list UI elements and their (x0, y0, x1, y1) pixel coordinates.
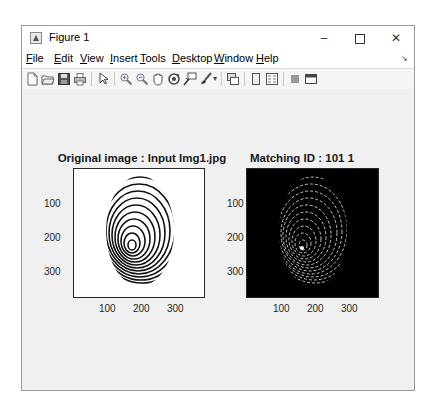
fingerprint-image (74, 169, 204, 297)
pan-hand-icon[interactable] (151, 72, 165, 86)
save-icon[interactable] (57, 72, 71, 86)
new-figure-icon[interactable] (25, 72, 39, 86)
maximize-icon (355, 34, 365, 44)
menu-view[interactable]: View (80, 52, 104, 64)
data-cursor-icon[interactable] (183, 72, 197, 86)
menu-tools[interactable]: Tools (140, 52, 166, 64)
insert-legend-icon[interactable] (304, 72, 318, 86)
toolbar-separator (114, 72, 115, 86)
menu-accel: D (172, 52, 180, 64)
dock-arrow-icon[interactable]: ↘ (401, 54, 408, 63)
menu-edit[interactable]: Edit (54, 52, 73, 64)
rotate-3d-icon[interactable] (167, 72, 181, 86)
xtick-label: 300 (167, 303, 184, 314)
menu-accel: W (214, 52, 224, 64)
xtick-label: 300 (341, 303, 358, 314)
menu-label: nsert (113, 52, 137, 64)
xtick-label: 100 (99, 303, 116, 314)
toolbar-separator (91, 72, 92, 86)
menu-accel: H (256, 52, 264, 64)
insert-colorbar-icon[interactable] (288, 72, 302, 86)
figure-toolbar: ▾ (22, 68, 414, 90)
toolbar-separator (221, 72, 222, 86)
menu-label: ile (33, 52, 44, 64)
menu-label: elp (264, 52, 279, 64)
title-bar[interactable]: Figure 1 – ✕ (22, 26, 414, 50)
xtick-label: 200 (133, 303, 150, 314)
menu-label: indow (224, 52, 253, 64)
xtick-label: 100 (273, 303, 290, 314)
axes-original-image[interactable] (73, 168, 205, 298)
plot-title-original: Original image : Input Img1.jpg (42, 152, 242, 164)
menu-bar: File Edit View Insert Tools Desktop Wind… (22, 50, 414, 68)
figure-canvas: Original image : Input Img1.jpg (22, 89, 414, 390)
print-icon[interactable] (73, 72, 87, 86)
open-file-icon[interactable] (41, 72, 55, 86)
axes-matching-image[interactable] (246, 168, 379, 298)
ytick-label: 200 (227, 232, 244, 243)
xtick-label: 200 (307, 303, 324, 314)
plot-title-matching: Matching ID : 101 1 (222, 152, 382, 164)
ytick-label: 100 (227, 198, 244, 209)
menu-help[interactable]: Help (256, 52, 279, 64)
menu-label: esktop (180, 52, 212, 64)
show-plot-tools-icon[interactable] (265, 72, 279, 86)
menu-desktop[interactable]: Desktop (172, 52, 212, 64)
minutia-point (300, 246, 304, 250)
toolbar-separator (244, 72, 245, 86)
ytick-label: 200 (44, 232, 61, 243)
zoom-in-icon[interactable] (119, 72, 133, 86)
ytick-label: 100 (44, 198, 61, 209)
menu-label: ools (146, 52, 166, 64)
thinned-fingerprint-image (247, 169, 378, 297)
matlab-figure-icon (30, 32, 42, 44)
menu-accel: F (26, 52, 33, 64)
zoom-out-icon[interactable] (135, 72, 149, 86)
brush-icon[interactable] (199, 72, 213, 86)
edit-plot-pointer-icon[interactable] (96, 72, 110, 86)
hide-plot-tools-icon[interactable] (249, 72, 263, 86)
menu-label: dit (61, 52, 73, 64)
menu-window[interactable]: Window (214, 52, 253, 64)
menu-file[interactable]: File (26, 52, 44, 64)
minimize-button[interactable]: – (306, 26, 342, 50)
toolbar-separator (283, 72, 284, 86)
link-plot-icon[interactable] (226, 72, 240, 86)
brush-dropdown-icon[interactable]: ▾ (213, 72, 219, 86)
close-button[interactable]: ✕ (378, 26, 414, 50)
maximize-button[interactable] (342, 26, 378, 50)
menu-insert[interactable]: Insert (110, 52, 138, 64)
window-title: Figure 1 (49, 31, 89, 43)
ytick-label: 300 (44, 266, 61, 277)
ytick-label: 300 (227, 266, 244, 277)
menu-label: iew (87, 52, 104, 64)
figure-window: Figure 1 – ✕ File Edit View Insert Tools… (21, 25, 415, 391)
